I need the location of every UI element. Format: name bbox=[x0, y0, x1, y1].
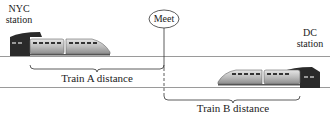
nyc-station-label-line2: station bbox=[2, 14, 36, 25]
train-a-distance-label: Train A distance bbox=[47, 73, 147, 84]
meet-label: Meet bbox=[149, 13, 179, 24]
dc-station-label-line1: DC bbox=[292, 27, 328, 38]
train-b-distance-label: Train B distance bbox=[183, 103, 283, 114]
nyc-station-label: NYC station bbox=[2, 3, 36, 25]
train-meeting-diagram: NYC station DC station Meet Train A dist… bbox=[0, 0, 330, 114]
train-b-icon bbox=[218, 70, 300, 86]
nyc-station-label-line1: NYC bbox=[2, 3, 36, 14]
dc-station-label: DC station bbox=[292, 27, 328, 49]
train-a-icon bbox=[30, 39, 110, 56]
train-a-brace bbox=[30, 65, 164, 72]
dc-station-label-line2: station bbox=[292, 38, 328, 49]
